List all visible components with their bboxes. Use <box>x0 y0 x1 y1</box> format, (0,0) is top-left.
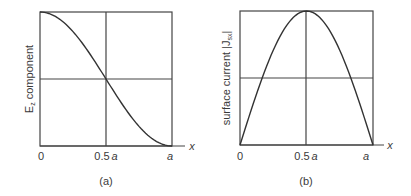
tick-0-b: 0 <box>237 150 243 162</box>
y-axis-label-a: Ez component <box>23 45 36 113</box>
tick-a-a: a <box>167 150 173 162</box>
x-axis-label-b: x <box>386 139 393 151</box>
panel-label-a: (a) <box>99 175 112 187</box>
x-axis-label-a: x <box>188 140 195 152</box>
y-axis-label-b: surface current |Jsx| <box>220 31 233 126</box>
tick-0-a: 0 <box>38 150 44 162</box>
tick-half-a: 0.5a <box>94 150 117 162</box>
tick-half-b: 0.5a <box>294 150 317 162</box>
panel-a: 0 0.5a a x (a) Ez component <box>23 12 195 187</box>
panel-b: 0 0.5a a x (b) surface current |Jsx| <box>220 11 393 187</box>
figure: 0 0.5a a x (a) Ez component 0 0.5a a x (… <box>0 0 411 196</box>
tick-a-b: a <box>363 150 369 162</box>
panel-label-b: (b) <box>299 175 312 187</box>
